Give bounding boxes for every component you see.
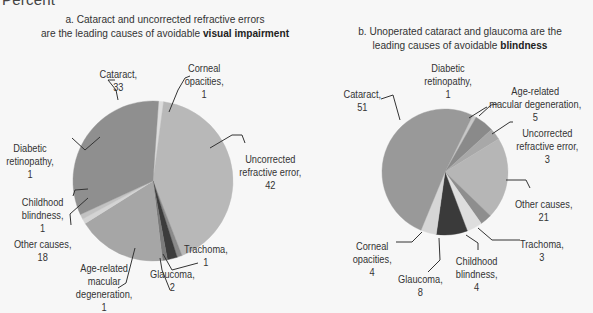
slice-label-trachoma: Trachoma,3 — [520, 238, 564, 264]
leader-line — [478, 228, 520, 240]
slice-label-uncorrected-refractive-error: Uncorrectedrefractive error,42 — [239, 153, 301, 192]
pie-chart-b — [382, 109, 508, 235]
slice-label-corneal-opacities: Cornealopacities,4 — [353, 240, 392, 279]
slice-label-diabetic-retinopathy: Diabeticretinopathy,1 — [424, 62, 472, 101]
slice-label-glaucoma: Glaucoma,8 — [398, 273, 443, 299]
leader-line — [396, 232, 422, 242]
leader-line — [506, 180, 530, 188]
slice-label-cataract: Cataract,51 — [343, 88, 380, 114]
slice-label-age-related-macular-degeneration: Age-relatedmaculardegeneration,1 — [76, 262, 133, 313]
leader-line — [428, 238, 440, 272]
pie-chart-a — [73, 101, 233, 261]
slice-label-age-related-macular-degeneration: Age-relatedmacular degeneration,5 — [489, 85, 581, 124]
slice-label-other-causes: Other causes,21 — [514, 198, 572, 224]
slice-label-diabetic-retinopathy: Diabeticretinopathy,1 — [6, 142, 54, 181]
slice-label-trachoma: Trachoma,1 — [184, 243, 228, 269]
slice-label-uncorrected-refractive-error: Uncorrectedrefractive error,3 — [516, 127, 578, 166]
leader-line — [466, 235, 478, 250]
leader-line — [381, 95, 400, 120]
slice-label-childhood-blindness: Childhoodblindness,1 — [21, 196, 63, 235]
slice-label-corneal-opacities: Cornealopacities,1 — [185, 62, 224, 101]
leader-line — [469, 107, 487, 118]
slice-label-cataract: Cataract,33 — [99, 68, 136, 94]
slice-label-other-causes: Other causes,18 — [13, 238, 71, 264]
slice-label-glaucoma: Glaucoma,2 — [150, 268, 195, 294]
slice-label-childhood-blindness: Childhoodblindness,4 — [455, 255, 497, 294]
